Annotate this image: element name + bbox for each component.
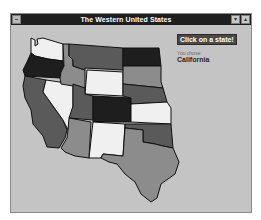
system-menu-button[interactable] xyxy=(12,15,21,24)
title-bar[interactable]: The Western United States ▾ ▴ xyxy=(11,14,251,25)
instruction-label: Click on a state! xyxy=(177,34,237,45)
us-west-map xyxy=(13,26,183,212)
window-title: The Western United States xyxy=(23,14,229,25)
chosen-state-value: California xyxy=(177,56,209,63)
minimize-button[interactable]: ▾ xyxy=(231,15,240,24)
app-window: The Western United States ▾ ▴ xyxy=(10,13,252,213)
state-kansas[interactable] xyxy=(131,102,171,124)
maximize-button[interactable]: ▴ xyxy=(241,15,250,24)
state-montana[interactable] xyxy=(69,44,123,70)
state-colorado[interactable] xyxy=(93,96,131,122)
state-new-mexico[interactable] xyxy=(89,122,125,158)
state-north-dakota[interactable] xyxy=(123,48,161,66)
state-wyoming[interactable] xyxy=(85,70,123,96)
